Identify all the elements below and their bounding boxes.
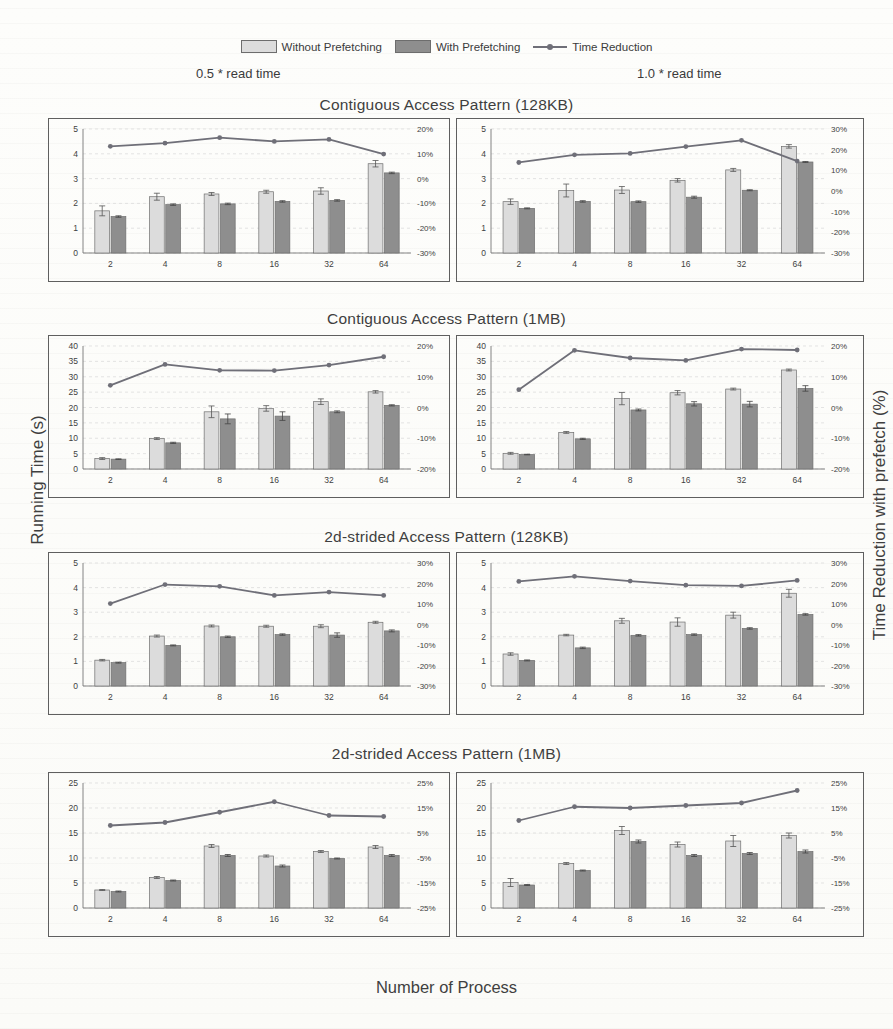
- y-tick-left: 30: [477, 372, 487, 382]
- x-tick-label: 16: [270, 259, 280, 269]
- line-time-reduction: [519, 140, 797, 162]
- line-time-reduction: [519, 349, 797, 390]
- line-marker-time-reduction: [272, 593, 277, 598]
- plot-contig-128kb-10: 012345-30%-20%-10%0%10%20%30%248163264: [457, 119, 865, 283]
- y-tick-left: 5: [73, 558, 78, 568]
- bar-without-prefetching: [781, 593, 796, 686]
- figure-root: Without Prefetching With Prefetching Tim…: [0, 0, 893, 1029]
- bar-without-prefetching: [670, 845, 685, 909]
- y-tick-left: 20: [69, 803, 79, 813]
- bar-with-prefetching: [742, 190, 757, 253]
- y-tick-right: -15%: [831, 879, 850, 888]
- subplot-strided-128kb-05: 012345-30%-20%-10%0%10%20%30%248163264: [48, 552, 450, 715]
- line-marker-time-reduction: [327, 813, 332, 818]
- y-tick-left: 5: [73, 449, 78, 459]
- y-tick-left: 2: [73, 632, 78, 642]
- y-tick-right: -20%: [417, 465, 436, 474]
- y-tick-left: 15: [69, 828, 79, 838]
- line-marker-time-reduction: [327, 137, 332, 142]
- line-marker-time-reduction: [739, 347, 744, 352]
- x-tick-label: 32: [324, 475, 334, 485]
- y-tick-right: 20%: [417, 125, 433, 134]
- line-marker-time-reduction: [163, 820, 168, 825]
- y-tick-left: 10: [477, 853, 487, 863]
- y-tick-left: 40: [477, 341, 487, 351]
- bar-without-prefetching: [95, 890, 110, 908]
- y-tick-left: 2: [481, 632, 486, 642]
- y-tick-right: 10%: [417, 600, 433, 609]
- y-tick-left: 5: [73, 124, 78, 134]
- bar-with-prefetching: [111, 663, 126, 686]
- line-marker-time-reduction: [272, 139, 277, 144]
- x-tick-label: 4: [572, 259, 577, 269]
- y-tick-right: 25%: [417, 779, 433, 788]
- y-tick-left: 3: [73, 174, 78, 184]
- bar-without-prefetching: [313, 402, 328, 469]
- y-tick-right: -30%: [417, 249, 436, 258]
- bar-without-prefetching: [503, 453, 518, 469]
- bar-with-prefetching: [798, 852, 813, 909]
- line-marker-time-reduction: [108, 144, 113, 149]
- bar-without-prefetching: [204, 194, 219, 253]
- bar-without-prefetching: [559, 191, 574, 253]
- bar-without-prefetching: [670, 393, 685, 469]
- y-tick-left: 15: [69, 418, 79, 428]
- x-tick-label: 8: [217, 259, 222, 269]
- bar-with-prefetching: [111, 217, 126, 253]
- line-marker-time-reduction: [108, 601, 113, 606]
- y-tick-right: 5%: [417, 829, 429, 838]
- line-marker-time-reduction: [163, 362, 168, 367]
- y-tick-left: 15: [477, 418, 487, 428]
- x-tick-label: 32: [737, 475, 747, 485]
- bar-with-prefetching: [575, 439, 590, 469]
- y-tick-left: 10: [477, 433, 487, 443]
- y-tick-left: 5: [73, 878, 78, 888]
- line-marker-time-reduction: [108, 383, 113, 388]
- bar-without-prefetching: [559, 432, 574, 469]
- x-tick-label: 8: [628, 259, 633, 269]
- bar-with-prefetching: [798, 162, 813, 253]
- line-marker-time-reduction: [381, 354, 386, 359]
- bar-without-prefetching: [726, 841, 741, 908]
- x-tick-label: 32: [324, 692, 334, 702]
- y-tick-left: 0: [481, 248, 486, 258]
- line-time-reduction: [519, 576, 797, 586]
- x-tick-label: 8: [217, 914, 222, 924]
- figure-legend: Without Prefetching With Prefetching Tim…: [0, 40, 893, 53]
- bar-without-prefetching: [781, 836, 796, 909]
- y-tick-right: -15%: [417, 879, 436, 888]
- y-tick-left: 2: [481, 198, 486, 208]
- y-tick-left: 2: [73, 198, 78, 208]
- line-marker-time-reduction: [516, 818, 521, 823]
- y-tick-right: -10%: [831, 208, 850, 217]
- line-marker-time-reduction: [795, 348, 800, 353]
- subplot-contig-128kb-10: 012345-30%-20%-10%0%10%20%30%248163264: [456, 118, 864, 282]
- x-tick-label: 16: [681, 475, 691, 485]
- plot-contig-1mb-05: 0510152025303540-20%-10%0%10%20%24816326…: [49, 336, 451, 499]
- y-tick-right: 5%: [831, 829, 843, 838]
- subplot-strided-128kb-10: 012345-30%-20%-10%0%10%20%30%248163264: [456, 552, 864, 715]
- bar-with-prefetching: [166, 881, 181, 909]
- bar-without-prefetching: [503, 654, 518, 686]
- bar-without-prefetching: [368, 847, 383, 908]
- line-marker-time-reduction: [683, 803, 688, 808]
- x-tick-label: 64: [379, 692, 389, 702]
- y-tick-left: 15: [477, 828, 487, 838]
- y-tick-left: 0: [481, 903, 486, 913]
- x-tick-label: 32: [324, 259, 334, 269]
- bar-with-prefetching: [631, 635, 646, 686]
- subplot-strided-1mb-05: 0510152025-25%-15%-5%5%15%25%248163264: [48, 772, 450, 937]
- y-tick-left: 25: [477, 387, 487, 397]
- x-tick-label: 16: [681, 259, 691, 269]
- x-tick-label: 8: [217, 475, 222, 485]
- bar-with-prefetching: [166, 205, 181, 253]
- y-tick-left: 20: [477, 803, 487, 813]
- x-tick-label: 2: [516, 475, 521, 485]
- bar-with-prefetching: [742, 628, 757, 686]
- y-tick-right: -10%: [417, 434, 436, 443]
- line-marker-time-reduction: [272, 799, 277, 804]
- x-tick-label: 64: [792, 259, 802, 269]
- y-tick-left: 30: [69, 372, 79, 382]
- line-marker-time-reduction: [628, 151, 633, 156]
- y-tick-right: 0%: [831, 187, 843, 196]
